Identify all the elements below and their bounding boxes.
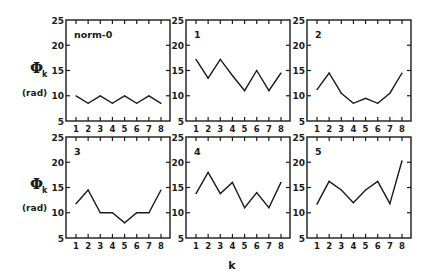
x-tick-label: 2 — [85, 241, 91, 251]
x-tick-label: 5 — [122, 241, 128, 251]
data-point — [341, 93, 342, 94]
y-tick-label: 10 — [171, 91, 184, 101]
y-tick-label: 5 — [299, 234, 305, 244]
panel-mode-5: 510152025123456785 — [292, 133, 411, 252]
y-tick-label: 25 — [51, 16, 64, 26]
x-tick-label: 4 — [109, 241, 115, 251]
data-point — [88, 189, 89, 190]
panel-frame — [186, 20, 290, 121]
data-point — [148, 95, 149, 96]
data-point — [232, 182, 233, 183]
data-point — [160, 189, 161, 190]
x-tick-label: 6 — [254, 124, 260, 134]
data-point — [329, 181, 330, 182]
panel-mode-3: 510152025123456783 — [51, 133, 170, 252]
x-tick-label: 4 — [350, 241, 356, 251]
data-point — [220, 59, 221, 60]
x-tick-label: 4 — [109, 124, 115, 134]
panel-frame — [186, 137, 290, 238]
panel-norm-0: 51015202512345678norm-0 — [51, 16, 170, 135]
x-tick-label: 4 — [229, 124, 235, 134]
data-point — [160, 103, 161, 104]
x-tick-label: 8 — [399, 124, 405, 134]
data-point — [208, 77, 209, 78]
x-tick-label: 3 — [338, 241, 344, 251]
x-tick-label: 7 — [266, 241, 272, 251]
series-line — [76, 190, 161, 223]
panel-mode-1: 510152025123456781 — [171, 16, 290, 135]
data-point — [256, 70, 257, 71]
x-tick-label: 1 — [193, 241, 199, 251]
y-tick-label: 10 — [51, 208, 64, 218]
data-point — [377, 103, 378, 104]
y-tick-label: 15 — [292, 183, 305, 193]
y-tick-label: 10 — [292, 208, 305, 218]
y-tick-label: 20 — [292, 41, 305, 51]
y-tick-label: 25 — [292, 133, 305, 143]
y-tick-label: 15 — [292, 66, 305, 76]
x-tick-label: 7 — [266, 124, 272, 134]
data-point — [136, 103, 137, 104]
ylabel-unit-row-1: (rad) — [22, 88, 47, 98]
data-point — [401, 160, 402, 161]
phase-chart-figure: 51015202512345678norm-051015202512345678… — [0, 0, 433, 278]
data-point — [268, 207, 269, 208]
data-point — [124, 95, 125, 96]
x-tick-label: 1 — [314, 124, 320, 134]
x-tick-label: 7 — [387, 124, 393, 134]
data-point — [256, 192, 257, 193]
y-tick-label: 25 — [292, 16, 305, 26]
ylabel-subscript-row-2: k — [42, 186, 48, 195]
ylabel-row-2: Φ k (rad) — [22, 175, 48, 213]
x-tick-label: 5 — [242, 124, 248, 134]
data-point — [389, 203, 390, 204]
data-point — [124, 222, 125, 223]
data-point — [100, 212, 101, 213]
x-tick-label: 5 — [363, 124, 369, 134]
data-point — [365, 98, 366, 99]
y-tick-label: 5 — [178, 234, 184, 244]
y-tick-label: 5 — [58, 234, 64, 244]
y-tick-label: 15 — [171, 183, 184, 193]
data-point — [244, 90, 245, 91]
x-tick-label: 3 — [217, 241, 223, 251]
x-tick-label: 7 — [146, 124, 152, 134]
data-point — [341, 189, 342, 190]
data-point — [75, 95, 76, 96]
y-tick-label: 25 — [171, 16, 184, 26]
panel-title: norm-0 — [74, 29, 113, 40]
y-tick-label: 20 — [171, 41, 184, 51]
data-point — [316, 89, 317, 90]
x-tick-label: 1 — [314, 241, 320, 251]
data-point — [244, 207, 245, 208]
panel-title: 2 — [315, 29, 322, 40]
data-point — [389, 93, 390, 94]
x-tick-label: 7 — [387, 241, 393, 251]
x-tick-label: 6 — [254, 241, 260, 251]
x-tick-label: 2 — [326, 124, 332, 134]
x-tick-label: 3 — [97, 241, 103, 251]
series-line — [317, 73, 402, 103]
panel-title: 4 — [194, 146, 201, 157]
data-point — [148, 212, 149, 213]
data-point — [208, 172, 209, 173]
data-point — [232, 75, 233, 76]
x-tick-label: 6 — [134, 241, 140, 251]
x-tick-label: 3 — [217, 124, 223, 134]
data-point — [353, 103, 354, 104]
panel-title: 5 — [315, 146, 322, 157]
x-tick-label: 2 — [85, 124, 91, 134]
x-tick-label: 3 — [338, 124, 344, 134]
panel-mode-2: 510152025123456782 — [292, 16, 411, 135]
data-point — [112, 212, 113, 213]
y-tick-label: 20 — [171, 158, 184, 168]
panel-title: 1 — [194, 29, 201, 40]
data-point — [329, 72, 330, 73]
x-tick-label: 4 — [229, 241, 235, 251]
data-point — [401, 72, 402, 73]
x-tick-label: 5 — [242, 241, 248, 251]
x-tick-label: 8 — [278, 124, 284, 134]
panel-frame — [66, 137, 170, 238]
data-point — [136, 212, 137, 213]
data-point — [195, 59, 196, 60]
